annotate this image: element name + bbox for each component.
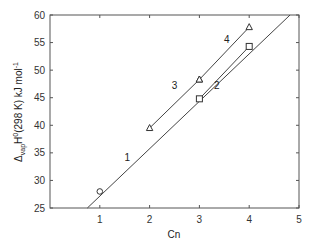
square-marker	[246, 43, 252, 49]
plot-area	[50, 15, 299, 208]
x-tick-label: 4	[246, 214, 252, 225]
y-tick-label: 25	[34, 203, 46, 214]
x-tick-label: 2	[147, 214, 153, 225]
x-tick-label: 5	[296, 214, 302, 225]
y-tick-label: 30	[34, 175, 46, 186]
y-tick-label: 55	[34, 37, 46, 48]
x-tick-label: 3	[197, 214, 203, 225]
annotation-label: 3	[172, 80, 178, 91]
y-tick-label: 40	[34, 120, 46, 131]
annotation-label: 4	[224, 34, 230, 45]
y-axis-label: ΔvapH0(298 K) kJ mol-1	[12, 62, 27, 162]
circle-marker	[97, 189, 103, 195]
annotation-label: 2	[214, 80, 220, 91]
y-tick-label: 60	[34, 10, 46, 21]
x-axis-label: Cn	[168, 229, 181, 240]
x-tick-label: 1	[97, 214, 103, 225]
chart: 2530354045505560 12345 1234 Cn ΔvapH0(29…	[0, 0, 315, 249]
y-tick-label: 35	[34, 147, 46, 158]
square-marker	[196, 96, 202, 102]
y-tick-label: 50	[34, 65, 46, 76]
annotation-label: 1	[124, 152, 130, 163]
series-circle	[97, 189, 103, 195]
y-tick-label: 45	[34, 92, 46, 103]
